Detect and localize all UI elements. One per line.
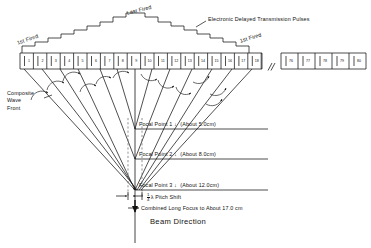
down-arrow-icon: ↓ [174, 182, 177, 188]
composite-line-2: Wave [7, 97, 21, 103]
pitch-shift-text: λ Pitch Shift [151, 194, 181, 201]
element-number: 12 [172, 59, 181, 63]
element-number: 18 [252, 59, 261, 63]
element-number: 4 [65, 59, 73, 63]
focal-point-2-name: Focal Point 2 [139, 151, 172, 157]
element-number: 76 [286, 59, 296, 63]
label-transmission-pulses: Electronic Delayed Transmission Pulses [208, 16, 310, 23]
composite-line-3: Front [7, 105, 20, 111]
element-number: 80 [354, 59, 364, 63]
label-composite-wave-front: Composite Wave Front [7, 90, 34, 112]
element-number: 77 [303, 59, 313, 63]
element-number: 3 [52, 59, 60, 63]
focal-point-1-distance: (About 5.0cm) [180, 121, 216, 127]
combined-focus-label: Combined Long Focus to About 17.0 cm [141, 205, 243, 212]
pitch-shift-label: 1 4 λ Pitch Shift [146, 191, 181, 203]
figure-canvas: 1st Fired Last Fired 1st Fired Electroni… [0, 0, 371, 248]
element-number: 11 [158, 59, 167, 63]
element-number: 78 [320, 59, 330, 63]
rays-composite-outer [24, 69, 252, 190]
down-arrow-icon: ↓ [174, 151, 177, 157]
focal-point-1-name: Focal Point 1 [139, 121, 172, 127]
quarter-wavelength-fraction: 1 4 [147, 193, 151, 203]
element-number: 8 [119, 59, 127, 63]
pitch-shift-dimension [116, 192, 143, 200]
element-number: 6 [92, 59, 100, 63]
element-number: 2 [38, 59, 46, 63]
focal-point-2-distance: (About 8.0cm) [180, 151, 216, 157]
focal-point-3-distance: (About 12.0cm) [180, 182, 219, 188]
rays-focal-1 [117, 69, 152, 129]
element-number: 15 [212, 59, 221, 63]
element-number: 13 [185, 59, 194, 63]
element-number: 79 [337, 59, 347, 63]
composite-line-1: Composite [7, 90, 34, 96]
element-number: 14 [199, 59, 208, 63]
element-number: 5 [79, 59, 87, 63]
focal-point-1-label: Focal Point 1 ↓ (About 5.0cm) [139, 121, 216, 128]
fraction-denominator: 4 [147, 198, 151, 202]
element-number: 16 [225, 59, 234, 63]
focal-point-3-name: Focal Point 3 [139, 182, 172, 188]
element-number: 9 [132, 59, 140, 63]
focal-point-3-label: Focal Point 3 ↓ (About 12.0cm) [139, 182, 219, 189]
pulse-label-leader [196, 21, 206, 27]
element-number: 7 [105, 59, 113, 63]
beam-direction-label: Beam Direction [150, 217, 206, 227]
focal-leader-lines [135, 129, 268, 190]
element-number: 10 [145, 59, 154, 63]
arc-wavefronts [31, 71, 226, 105]
focal-point-2-label: Focal Point 2 ↓ (About 8.0cm) [139, 151, 216, 158]
element-number: 17 [239, 59, 248, 63]
element-number: 1 [25, 59, 33, 63]
down-arrow-icon: ↓ [174, 121, 177, 127]
